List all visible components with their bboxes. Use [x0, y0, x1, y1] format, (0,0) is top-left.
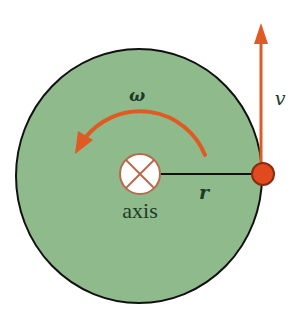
axis-label: axis [122, 198, 157, 223]
velocity-arrowhead [254, 23, 268, 44]
rotating-disk-diagram: ω r v axis [0, 0, 294, 317]
velocity-label: v [275, 87, 286, 109]
rim-point [252, 163, 274, 185]
axis-into-page-icon [120, 154, 160, 194]
omega-label: ω [129, 85, 145, 105]
